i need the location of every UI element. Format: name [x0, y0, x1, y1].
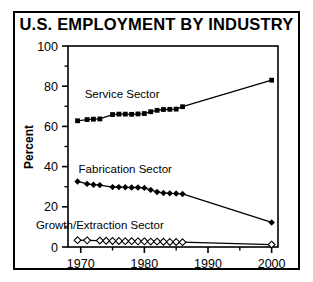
data-point [97, 182, 103, 188]
data-point [167, 107, 172, 112]
data-point [123, 112, 128, 117]
data-point [154, 238, 161, 245]
y-tick-label: 60 [44, 120, 58, 134]
data-point [160, 238, 167, 245]
x-tick-label: 1970 [67, 257, 95, 271]
data-point [136, 112, 141, 117]
data-point [135, 184, 141, 190]
x-tick-label: 2000 [258, 257, 286, 271]
plot-area: 0204060801001970198019902000 Service Sec… [0, 0, 313, 282]
series-label: Growth/Extraction Sector [36, 219, 164, 231]
data-point [84, 181, 90, 187]
series-label: Fabrication Sector [79, 163, 172, 175]
data-point [141, 185, 147, 191]
data-point [148, 187, 154, 193]
series-line [78, 181, 272, 222]
data-point [128, 238, 135, 245]
data-point [167, 190, 173, 196]
data-point [129, 112, 134, 117]
axes-group: 0204060801001970198019902000 [37, 40, 285, 272]
data-point [174, 107, 179, 112]
data-point [75, 118, 80, 123]
data-point [268, 219, 274, 225]
data-point [161, 107, 166, 112]
data-point [128, 184, 134, 190]
data-point [117, 112, 122, 117]
x-tick-label: 1980 [130, 257, 158, 271]
y-tick-label: 40 [44, 160, 58, 174]
data-point [96, 237, 103, 244]
data-point [84, 237, 91, 244]
data-point [74, 178, 80, 184]
chart-figure: U.S. EMPLOYMENT BY INDUSTRY Percent 0204… [0, 0, 313, 282]
y-tick-label: 100 [37, 40, 58, 54]
data-point [269, 78, 274, 83]
data-point [122, 184, 128, 190]
data-point [142, 111, 147, 116]
plot-frame [68, 46, 278, 247]
data-point [173, 190, 179, 196]
data-point [91, 117, 96, 122]
series-service-sector [75, 78, 274, 123]
data-point [154, 189, 160, 195]
series-label: Service Sector [85, 88, 160, 100]
series-line [78, 80, 272, 121]
data-point [110, 112, 115, 117]
data-point [85, 117, 90, 122]
y-tick-label: 0 [51, 241, 58, 255]
data-point [155, 108, 160, 113]
y-tick-label: 20 [44, 200, 58, 214]
data-point [97, 117, 102, 122]
y-tick-label: 80 [44, 80, 58, 94]
data-point [103, 237, 110, 244]
data-point [179, 191, 185, 197]
data-point [173, 239, 180, 246]
data-point [90, 181, 96, 187]
data-point [74, 237, 81, 244]
data-point [148, 109, 153, 114]
data-point [116, 238, 123, 245]
data-point [160, 190, 166, 196]
data-point [180, 104, 185, 109]
data-point [116, 184, 122, 190]
data-point [141, 238, 148, 245]
data-point [179, 239, 186, 246]
x-tick-label: 1990 [194, 257, 222, 271]
data-point [109, 184, 115, 190]
